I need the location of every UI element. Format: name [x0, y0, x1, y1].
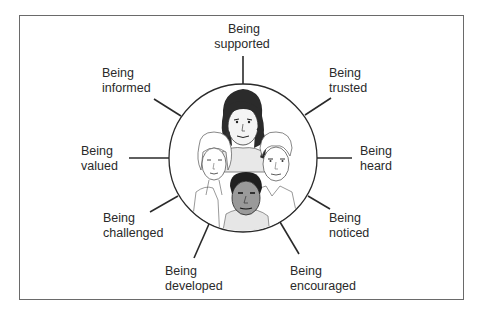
spoke-informed [154, 99, 181, 116]
label-heard-line2: heard [360, 159, 392, 174]
label-challenged-line1: Being [103, 211, 163, 226]
label-trusted: Beingtrusted [329, 66, 367, 96]
label-developed: Beingdeveloped [165, 264, 223, 294]
label-informed-line2: informed [102, 81, 151, 96]
spoke-challenged [150, 196, 178, 212]
label-valued-line1: Being [81, 144, 118, 159]
label-noticed-line2: noticed [329, 226, 369, 241]
label-heard-line1: Being [360, 144, 392, 159]
label-encouraged-line2: encouraged [290, 279, 356, 294]
spoke-noticed [308, 196, 330, 209]
label-supported: Beingsupported [218, 22, 270, 52]
label-developed-line2: developed [165, 279, 223, 294]
label-developed-line1: Being [165, 264, 223, 279]
label-trusted-line2: trusted [329, 81, 367, 96]
label-noticed: Beingnoticed [329, 211, 369, 241]
label-supported-line1: Being [218, 22, 270, 37]
label-challenged: Beingchallenged [103, 211, 163, 241]
label-encouraged: Beingencouraged [290, 264, 356, 294]
label-noticed-line1: Being [329, 211, 369, 226]
label-informed-line1: Being [102, 66, 151, 81]
label-heard: Beingheard [360, 144, 392, 174]
label-trusted-line1: Being [329, 66, 367, 81]
label-informed: Beinginformed [102, 66, 151, 96]
spoke-trusted [305, 98, 331, 115]
spoke-developed [194, 224, 209, 258]
label-supported-line2: supported [214, 37, 270, 52]
label-valued: Beingvalued [81, 144, 118, 174]
label-challenged-line2: challenged [103, 226, 163, 241]
label-encouraged-line1: Being [290, 264, 356, 279]
label-valued-line2: valued [81, 159, 118, 174]
spoke-encouraged [280, 222, 299, 254]
